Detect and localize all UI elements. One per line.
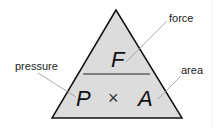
pressure-leader xyxy=(38,73,76,97)
formula-triangle-diagram: F P × A force pressure area xyxy=(0,0,215,127)
multiply-operator: × xyxy=(108,88,119,108)
force-label: force xyxy=(169,12,193,24)
area-label: area xyxy=(181,64,204,76)
pressure-label: pressure xyxy=(15,60,58,72)
force-symbol: F xyxy=(111,47,126,72)
pressure-symbol: P xyxy=(76,86,91,111)
area-symbol: A xyxy=(136,86,153,111)
